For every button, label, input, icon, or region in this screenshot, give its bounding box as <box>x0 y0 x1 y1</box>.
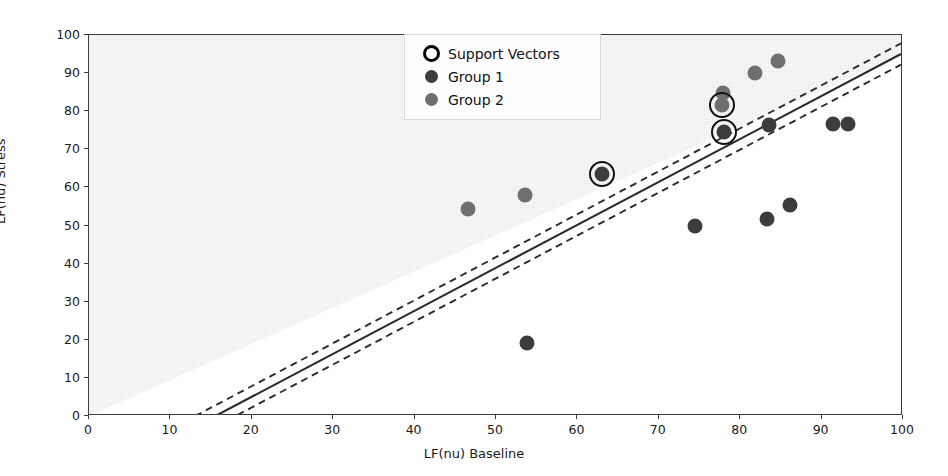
y-axis-tick <box>84 377 88 378</box>
x-axis-tick <box>332 415 333 419</box>
y-axis-tick <box>84 148 88 149</box>
y-axis-tick <box>84 34 88 35</box>
x-axis-tick-label: 90 <box>813 422 829 437</box>
x-axis-tick-label: 30 <box>324 422 340 437</box>
y-axis-tick <box>84 263 88 264</box>
y-axis-tick-label: 0 <box>46 408 80 423</box>
data-point <box>761 118 776 133</box>
y-axis-tick-label: 40 <box>46 255 80 270</box>
x-axis-tick-label: 40 <box>406 422 422 437</box>
y-axis-tick-label: 80 <box>46 103 80 118</box>
x-axis-tick-label: 0 <box>84 422 92 437</box>
y-axis-tick <box>84 110 88 111</box>
x-axis-tick <box>169 415 170 419</box>
x-axis-tick-label: 70 <box>650 422 666 437</box>
legend-label-support-vectors: Support Vectors <box>448 46 560 62</box>
y-axis-tick <box>84 301 88 302</box>
x-axis-tick <box>902 415 903 419</box>
legend-item-group-2: Group 2 <box>414 88 591 111</box>
x-axis-tick <box>414 415 415 419</box>
x-axis-tick <box>739 415 740 419</box>
data-point <box>840 117 855 132</box>
x-axis-tick <box>576 415 577 419</box>
y-axis-tick-label: 50 <box>46 217 80 232</box>
legend-item-group-1: Group 1 <box>414 65 591 88</box>
x-axis-tick <box>251 415 252 419</box>
y-axis-tick-label: 90 <box>46 65 80 80</box>
x-axis-tick-label: 10 <box>161 422 177 437</box>
y-axis-tick <box>84 72 88 73</box>
filled-circle-icon <box>414 70 448 83</box>
support-vector-marker <box>711 119 737 145</box>
data-point <box>519 335 534 350</box>
x-axis-tick <box>88 415 89 419</box>
filled-circle-icon <box>414 93 448 106</box>
y-axis-tick <box>84 186 88 187</box>
support-vector-marker <box>709 92 735 118</box>
x-axis-tick-label: 60 <box>568 422 584 437</box>
y-axis-tick-label: 20 <box>46 331 80 346</box>
x-axis-tick <box>495 415 496 419</box>
support-vector-marker <box>589 161 615 187</box>
data-point <box>825 117 840 132</box>
y-axis-tick-label: 60 <box>46 179 80 194</box>
x-axis-tick <box>821 415 822 419</box>
open-circle-icon <box>414 45 448 62</box>
data-point <box>518 188 533 203</box>
y-axis-tick-label: 100 <box>46 27 80 42</box>
y-axis-tick-label: 70 <box>46 141 80 156</box>
x-axis-tick-label: 100 <box>890 422 914 437</box>
x-axis-tick <box>658 415 659 419</box>
y-axis-tick <box>84 339 88 340</box>
legend: Support Vectors Group 1 Group 2 <box>404 34 601 120</box>
data-point <box>461 202 476 217</box>
x-axis-tick-label: 80 <box>731 422 747 437</box>
legend-item-support-vectors: Support Vectors <box>414 42 591 65</box>
x-axis-tick-label: 20 <box>243 422 259 437</box>
y-axis-tick-label: 10 <box>46 369 80 384</box>
x-axis-label: LF(nu) Baseline <box>0 446 948 461</box>
data-point <box>747 66 762 81</box>
y-axis-tick <box>84 415 88 416</box>
legend-label-group-1: Group 1 <box>448 69 504 85</box>
legend-label-group-2: Group 2 <box>448 92 504 108</box>
y-axis-tick <box>84 225 88 226</box>
data-point <box>782 197 797 212</box>
y-axis-tick-label: 30 <box>46 293 80 308</box>
y-axis-label: LF(nu) Stress <box>0 139 8 224</box>
x-axis-tick-label: 50 <box>487 422 503 437</box>
data-point <box>760 212 775 227</box>
data-point <box>770 53 785 68</box>
chart-figure: 0102030405060708090100010203040506070809… <box>0 0 948 476</box>
data-point <box>687 219 702 234</box>
